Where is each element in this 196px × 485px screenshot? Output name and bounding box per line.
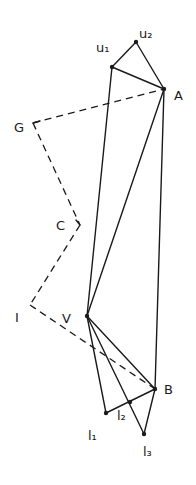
point-A (162, 87, 166, 91)
edge-u1-u2 (112, 42, 136, 67)
edge-u1-A (112, 67, 164, 89)
label-u1: u₁ (96, 40, 109, 55)
label-B: B (164, 382, 173, 397)
point-l1 (104, 411, 108, 415)
label-u2: u₂ (139, 26, 152, 41)
label-C: C (56, 218, 65, 233)
label-I: I (15, 310, 19, 325)
labels: u₁ u₂ A G C I V B l₁ l₂ l₃ (14, 26, 183, 459)
label-l2: l₂ (117, 408, 126, 423)
label-V: V (62, 311, 71, 326)
label-G: G (14, 120, 24, 135)
solid-edges (87, 42, 164, 434)
diagram-canvas: u₁ u₂ A G C I V B l₁ l₂ l₃ (0, 0, 196, 485)
edge-B-l3 (144, 389, 155, 434)
edge-u2-A (136, 42, 164, 89)
vertices (85, 40, 166, 436)
edge-V-l3 (87, 316, 144, 434)
dashed-edges (30, 89, 164, 389)
edge-A-B (155, 89, 164, 389)
point-V (85, 314, 89, 318)
point-u1 (110, 65, 114, 69)
label-l1: l₁ (88, 428, 97, 443)
edge-V-l1 (87, 316, 106, 413)
point-l3 (142, 432, 146, 436)
label-l3: l₃ (143, 444, 152, 459)
edge-G-A (33, 89, 164, 123)
label-A: A (174, 88, 183, 103)
edge-G-C (33, 123, 80, 225)
edge-V-B (87, 316, 155, 389)
point-l2 (128, 400, 132, 404)
tick-G (33, 121, 40, 123)
point-B (153, 387, 157, 391)
point-u2 (134, 40, 138, 44)
edge-C-I (30, 225, 80, 305)
